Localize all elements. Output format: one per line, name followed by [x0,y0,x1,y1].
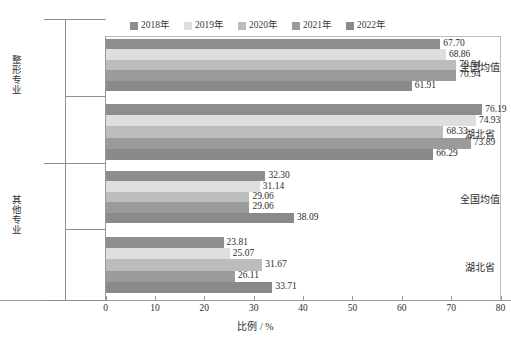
bar-value-label: 29.06 [252,203,273,213]
bar[interactable] [106,115,476,126]
bar-group: 67.7068.8670.9470.9461.91 [106,39,501,91]
bar-value-label: 33.71 [275,283,296,293]
inner-category-separator [65,96,106,97]
outer-category-separator [44,19,106,20]
y-category-label: 湖北省 [449,259,511,274]
x-axis-tick [155,296,156,301]
bar[interactable] [106,271,235,282]
x-axis-tick-label: 0 [103,303,108,313]
x-axis-tick [501,296,502,301]
legend-entry[interactable]: 2018年 [130,21,170,31]
x-axis-tick-label: 70 [446,303,456,313]
bar-row: 31.67 [106,259,501,270]
bar-row: 68.33 [106,126,501,137]
bar[interactable] [106,138,471,149]
bar[interactable] [106,237,224,248]
chart-legend: 2018年2019年2020年2021年2022年 [130,18,450,34]
legend-label: 2021年 [303,21,332,31]
bar[interactable] [106,282,272,293]
bar-group: 76.1974.9368.3373.8966.29 [106,104,501,160]
x-axis-tick [451,296,452,301]
bar[interactable] [106,49,446,59]
outer-category-spine [65,19,66,300]
bar-row: 76.19 [106,104,501,115]
bar-value-label: 25.07 [233,249,254,259]
bar-row: 74.93 [106,115,501,126]
bar-row: 33.71 [106,282,501,293]
x-axis-tick-label: 20 [200,303,210,313]
bar-group: 23.8125.0731.6726.1133.71 [106,237,501,293]
bar-row: 70.94 [106,70,501,80]
bar-value-label: 68.86 [449,50,470,60]
legend-label: 2019年 [195,21,224,31]
bar[interactable] [106,126,443,137]
outer-category-separator [44,300,106,301]
bar[interactable] [106,149,433,160]
bar-value-label: 23.81 [227,238,248,248]
bar[interactable] [106,70,456,80]
x-axis-tick-label: 50 [348,303,358,313]
bar-value-label: 29.06 [252,192,273,202]
legend-label: 2020年 [249,21,278,31]
legend-label: 2022年 [357,21,386,31]
bar-row: 29.06 [106,202,501,212]
bar-row: 38.09 [106,213,501,223]
x-axis-title: 比例 / % [0,318,511,333]
legend-swatch-icon [130,22,138,30]
x-axis-tick [254,296,255,301]
bar-group: 32.3031.1429.0629.0638.09 [106,171,501,223]
x-axis-tick [303,296,304,301]
outer-category-separator [44,163,106,164]
x-axis-tick [352,296,353,301]
bar[interactable] [106,202,249,212]
x-axis-tick [204,296,205,301]
x-axis-tick [106,296,107,301]
bar-value-label: 76.19 [485,105,506,115]
bar-row: 61.91 [106,81,501,91]
bar-row: 73.89 [106,138,501,149]
y-category-label: 湖北省 [449,126,511,141]
outer-category-label: 整形专业 [8,55,22,95]
legend-entry[interactable]: 2021年 [292,21,332,31]
plot-frame-top [105,36,501,37]
bar[interactable] [106,104,482,115]
legend-swatch-icon [292,22,300,30]
bar-row: 25.07 [106,248,501,259]
bar-row: 23.81 [106,237,501,248]
legend-entry[interactable]: 2022年 [346,21,386,31]
bar-row: 67.70 [106,39,501,49]
bar[interactable] [106,60,456,70]
bar-row: 70.94 [106,60,501,70]
legend-swatch-icon [184,22,192,30]
bar[interactable] [106,213,294,223]
bar-row: 66.29 [106,149,501,160]
bar-row: 32.30 [106,171,501,181]
bar[interactable] [106,181,260,191]
legend-entry[interactable]: 2020年 [238,21,278,31]
bar-value-label: 38.09 [297,213,318,223]
bar[interactable] [106,192,249,202]
bar-row: 68.86 [106,49,501,59]
bar-value-label: 32.30 [268,171,289,181]
legend-swatch-icon [238,22,246,30]
bar-row: 26.11 [106,271,501,282]
bar[interactable] [106,39,440,49]
x-axis-tick-label: 60 [397,303,407,313]
y-category-label: 全国均值 [449,191,511,206]
legend-label: 2018年 [141,21,170,31]
bar-value-label: 31.14 [263,182,284,192]
bar-value-label: 26.11 [238,271,259,281]
x-axis-tick [402,296,403,301]
bar-value-label: 67.70 [443,39,464,49]
inner-category-separator [65,229,106,230]
legend-entry[interactable]: 2019年 [184,21,224,31]
x-axis-tick-label: 30 [249,303,259,313]
bar-value-label: 74.93 [479,116,500,126]
x-axis-tick-label: 80 [496,303,506,313]
bar[interactable] [106,259,262,270]
bar[interactable] [106,248,230,259]
outer-category-label: 其他专业 [8,195,22,235]
bar-value-label: 66.29 [436,150,457,160]
bar[interactable] [106,171,265,181]
bar[interactable] [106,81,412,91]
